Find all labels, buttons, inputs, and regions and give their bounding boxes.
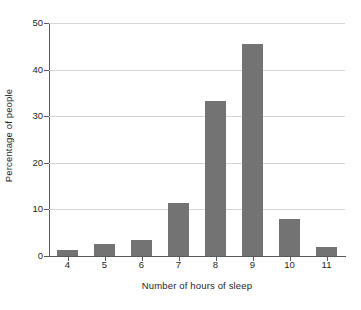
y-axis-tick-labels: 01020304050 [17, 0, 43, 270]
y-tick-label-30: 30 [21, 111, 43, 121]
bar-6 [131, 240, 152, 256]
y-tick-mark-30 [44, 116, 49, 117]
x-tick-mark-10 [290, 257, 291, 261]
x-tick-mark-6 [142, 257, 143, 261]
y-tick-label-20: 20 [21, 158, 43, 168]
y-tick-label-40: 40 [21, 65, 43, 75]
bar-7 [168, 203, 189, 256]
y-tick-label-50: 50 [21, 18, 43, 28]
bar-4 [57, 250, 78, 256]
bar-11 [316, 247, 337, 256]
y-tick-label-10: 10 [21, 204, 43, 214]
x-tick-mark-7 [179, 257, 180, 261]
bars-layer [49, 23, 345, 256]
y-tick-label-0: 0 [21, 251, 43, 261]
y-tick-mark-20 [44, 163, 49, 164]
y-tick-mark-50 [44, 23, 49, 24]
x-tick-mark-8 [216, 257, 217, 261]
bar-8 [205, 101, 226, 256]
bar-5 [94, 244, 115, 256]
x-axis-line [49, 256, 346, 257]
y-tick-mark-10 [44, 209, 49, 210]
x-axis-title: Number of hours of sleep [49, 280, 345, 291]
x-tick-mark-4 [68, 257, 69, 261]
x-tick-mark-5 [105, 257, 106, 261]
y-tick-mark-40 [44, 70, 49, 71]
x-tick-mark-11 [327, 257, 328, 261]
bar-9 [242, 44, 263, 256]
y-tick-mark-0 [44, 256, 49, 257]
y-axis-title-text: Percentage of people [3, 88, 14, 181]
x-axis-tick-labels: 4567891011 [49, 259, 345, 275]
x-tick-mark-9 [253, 257, 254, 261]
bar-chart-figure: Percentage of people 01020304050 4567891… [0, 0, 361, 310]
y-axis-title: Percentage of people [0, 0, 17, 270]
bar-10 [279, 219, 300, 256]
